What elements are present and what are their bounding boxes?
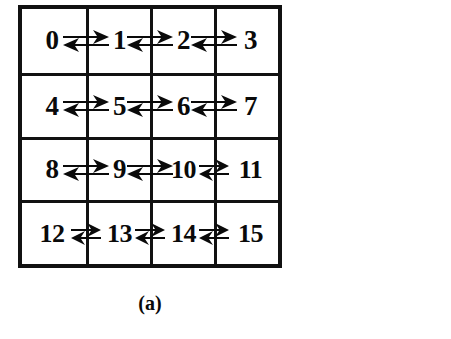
node-cell: 6 [150, 76, 214, 137]
node-label: 2 [177, 27, 190, 54]
node-cell: 3 [214, 9, 278, 73]
grid-row: 12 13 14 15 [22, 200, 278, 264]
figure-root: 0 1 2 3 [0, 0, 451, 339]
node-label: 14 [171, 221, 196, 247]
node-cell: 13 [86, 203, 150, 264]
node-label: 1 [113, 27, 126, 54]
node-cell: 4 [22, 76, 86, 137]
node-cell: 5 [86, 76, 150, 137]
node-cell: 15 [214, 203, 278, 264]
node-label: 3 [244, 27, 257, 54]
node-cell: 1 [86, 9, 150, 73]
figure-caption: (a) [0, 292, 300, 315]
node-label: 5 [113, 93, 126, 120]
node-label: 0 [46, 27, 59, 54]
node-label: 7 [244, 93, 257, 120]
mesh-grid: 0 1 2 3 [18, 5, 282, 268]
node-cell: 2 [150, 9, 214, 73]
node-label: 6 [177, 93, 190, 120]
node-cell: 14 [150, 203, 214, 264]
node-cell: 10 [150, 140, 214, 201]
node-cell: 9 [86, 140, 150, 201]
grid-row: 8 9 10 11 [22, 137, 278, 201]
node-cell: 8 [22, 140, 86, 201]
node-label: 11 [239, 157, 263, 183]
grid-row: 4 5 6 7 [22, 73, 278, 137]
node-label: 8 [46, 156, 59, 183]
node-label: 12 [40, 221, 65, 247]
node-cell: 0 [22, 9, 86, 73]
grid-row: 0 1 2 3 [22, 9, 278, 73]
node-cell: 12 [22, 203, 86, 264]
node-cell: 11 [214, 140, 278, 201]
node-label: 15 [238, 221, 263, 247]
node-cell: 7 [214, 76, 278, 137]
node-label: 13 [107, 221, 132, 247]
node-label: 9 [113, 156, 126, 183]
node-label: 4 [46, 93, 59, 120]
node-label: 10 [171, 157, 196, 183]
